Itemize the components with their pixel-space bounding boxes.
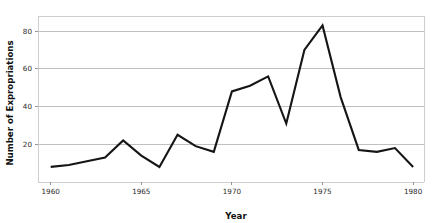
y-tick-label-20: 20	[23, 140, 33, 149]
chart-figure: 19601965197019751980 20406080 Year Numbe…	[0, 0, 433, 223]
x-tick-label-1975: 1975	[313, 187, 331, 196]
y-tick-label-80: 80	[23, 27, 33, 36]
y-tick-label-40: 40	[23, 102, 33, 111]
x-tick-label-1980: 1980	[404, 187, 423, 196]
y-axis-title: Number of Expropriations	[5, 40, 15, 165]
line-chart: 19601965197019751980 20406080 Year Numbe…	[0, 0, 433, 223]
y-tick-label-60: 60	[23, 64, 33, 73]
x-tick-label-1960: 1960	[42, 187, 61, 196]
x-axis-title: Year	[224, 211, 247, 221]
x-tick-label-1965: 1965	[132, 187, 150, 196]
chart-background	[0, 0, 433, 223]
x-tick-label-1970: 1970	[223, 187, 242, 196]
